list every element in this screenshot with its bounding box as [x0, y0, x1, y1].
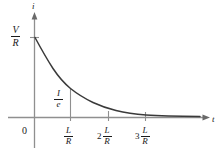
fraction-denominator: R	[11, 38, 19, 49]
fraction-l-over-r: L R	[103, 126, 112, 147]
tick-label-group: L R	[63, 126, 73, 147]
x-axis-label: t	[212, 115, 215, 124]
origin-label: 0	[22, 126, 27, 136]
fraction-denominator: R	[65, 137, 73, 146]
fraction-denominator: R	[103, 137, 111, 146]
fraction-denominator: e	[56, 100, 62, 109]
x-tick-label-1: L R	[63, 126, 73, 147]
y-axis-arrowhead	[32, 12, 38, 20]
fraction-i-over-e: I e	[54, 89, 63, 110]
x-tick-label-3: 3 L R	[135, 126, 150, 147]
fraction-numerator: I	[56, 89, 61, 98]
x-tick-label-2: 2 L R	[97, 126, 112, 147]
fraction-v-over-r: V R	[11, 25, 20, 48]
tick-label-group: 3 L R	[135, 126, 150, 147]
rl-circuit-decay-figure: i t V R I e 0 L R 2	[0, 0, 222, 155]
fraction-l-over-r: L R	[64, 126, 73, 147]
fraction-numerator: L	[103, 126, 110, 135]
fraction-denominator: R	[141, 137, 149, 146]
y-axis-label: i	[32, 2, 35, 11]
tick-label-group: 2 L R	[97, 126, 112, 147]
fraction-numerator: V	[11, 25, 19, 36]
fraction-l-over-r: L R	[141, 126, 150, 147]
y-intercept-label: V R	[11, 25, 20, 48]
fraction-numerator: L	[65, 126, 72, 135]
fraction-numerator: L	[141, 126, 148, 135]
decay-value-label: I e	[54, 89, 63, 110]
x-axis-arrowhead	[203, 115, 211, 121]
